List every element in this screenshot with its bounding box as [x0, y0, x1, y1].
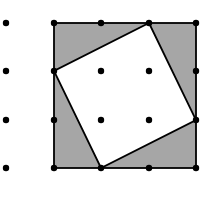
grid-dot: [146, 20, 152, 26]
grid-dot: [193, 117, 199, 123]
diagram-canvas: [0, 0, 211, 204]
grid-dot: [3, 20, 9, 26]
grid-dot: [3, 68, 9, 74]
grid-dot: [146, 117, 152, 123]
grid-dot: [51, 20, 57, 26]
grid-dot: [3, 165, 9, 171]
grid-dot: [98, 117, 104, 123]
grid-dot: [193, 20, 199, 26]
grid-dot: [98, 20, 104, 26]
grid-dot: [3, 117, 9, 123]
grid-dot: [98, 165, 104, 171]
grid-dot: [51, 117, 57, 123]
grid-dot: [51, 68, 57, 74]
grid-dot: [51, 165, 57, 171]
grid-dot: [146, 68, 152, 74]
geoboard-figure: [0, 0, 211, 204]
grid-dot: [146, 165, 152, 171]
grid-dot: [193, 165, 199, 171]
grid-dot: [98, 68, 104, 74]
grid-dot: [193, 68, 199, 74]
